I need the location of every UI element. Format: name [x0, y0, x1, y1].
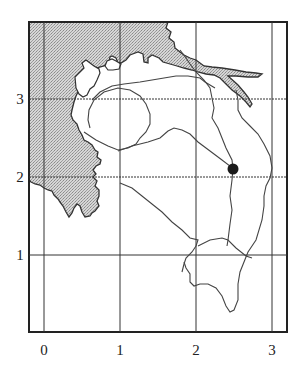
routes: [84, 50, 272, 312]
y-tick-1: 1: [16, 247, 24, 263]
location-marker: [228, 164, 239, 175]
y-tick-2: 2: [16, 169, 24, 185]
x-tick-1: 1: [116, 342, 124, 358]
sea-area: [29, 22, 262, 217]
y-axis-labels: 1 2 3: [16, 91, 24, 263]
x-tick-3: 3: [268, 342, 276, 358]
y-tick-3: 3: [16, 91, 24, 107]
map-canvas: 0 1 2 3 1 2 3: [0, 0, 303, 370]
x-axis-labels: 0 1 2 3: [40, 342, 276, 358]
x-tick-0: 0: [40, 342, 48, 358]
x-tick-2: 2: [192, 342, 200, 358]
map: 0 1 2 3 1 2 3: [0, 0, 303, 370]
